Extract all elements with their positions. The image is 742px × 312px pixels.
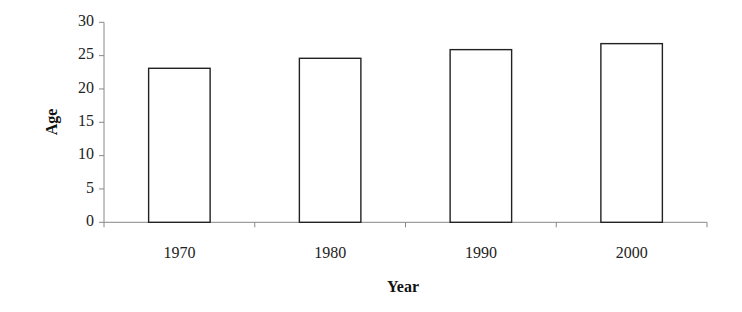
- y-tick-label: 0: [86, 212, 94, 229]
- y-tick-label: 25: [78, 45, 94, 62]
- x-axis: 1970198019902000: [104, 222, 707, 261]
- y-axis-title: Age: [43, 109, 61, 136]
- bar-1990: [450, 50, 512, 223]
- bar-1980: [299, 58, 361, 222]
- bars: [149, 44, 663, 223]
- bar-1970: [149, 68, 211, 222]
- x-tick-label: 2000: [616, 244, 648, 261]
- y-tick-label: 20: [78, 79, 94, 96]
- y-tick-label: 5: [86, 179, 94, 196]
- bar-2000: [601, 44, 663, 223]
- x-tick-label: 1990: [465, 244, 497, 261]
- y-tick-label: 15: [78, 112, 94, 129]
- bar-chart: 051015202530 1970198019902000 Age Year: [0, 0, 742, 312]
- x-tick-label: 1980: [314, 244, 346, 261]
- x-tick-label: 1970: [163, 244, 195, 261]
- x-axis-title: Year: [387, 278, 419, 295]
- y-tick-label: 30: [78, 12, 94, 29]
- y-tick-label: 10: [78, 145, 94, 162]
- y-axis: 051015202530: [78, 12, 104, 229]
